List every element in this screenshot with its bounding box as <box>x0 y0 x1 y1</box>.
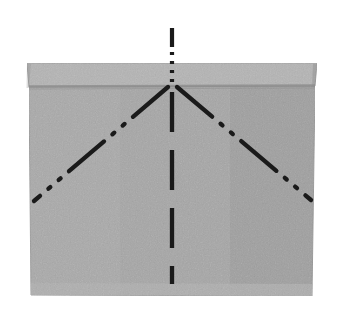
body-shadow-right <box>230 86 315 296</box>
figure-container <box>0 0 339 322</box>
bottom-seam-band <box>31 283 312 296</box>
body-highlight-left <box>29 87 120 295</box>
flap-fold-edge <box>29 86 315 87</box>
top-flap-band <box>27 63 317 87</box>
bag-fold-diagram <box>0 0 339 322</box>
